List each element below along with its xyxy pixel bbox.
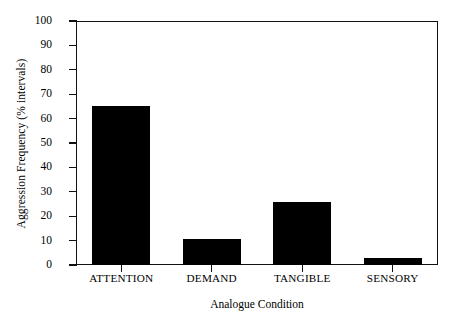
y-axis-tick-label: 100 — [0, 15, 64, 27]
x-axis-title: Analogue Condition — [76, 298, 438, 311]
bar-tangible — [273, 202, 331, 265]
y-axis-tick-label: 10 — [0, 235, 64, 247]
bar-demand — [183, 239, 241, 265]
x-axis-tick — [121, 265, 122, 272]
bar-attention — [92, 106, 150, 265]
y-axis-tick-label: 80 — [0, 64, 64, 76]
y-axis-tick-label: 50 — [0, 137, 64, 149]
y-axis-tick-label: 30 — [0, 186, 64, 198]
bar-chart-figure: Aggression Frequency (% intervals) 01020… — [0, 0, 462, 323]
y-axis-tick-label: 0 — [0, 259, 64, 271]
y-axis-tick-label: 70 — [0, 88, 64, 100]
x-axis-tick — [302, 265, 303, 272]
x-axis-tick — [211, 265, 212, 272]
y-axis-tick-label: 90 — [0, 39, 64, 51]
x-axis-tick-label-sensory: SENSORY — [333, 272, 453, 285]
y-axis-tick-label: 60 — [0, 113, 64, 125]
y-axis-tick-label: 20 — [0, 210, 64, 222]
bar-sensory — [364, 258, 422, 265]
x-axis-tick — [392, 265, 393, 272]
plot-area — [76, 21, 438, 265]
y-axis-tick-label: 40 — [0, 161, 64, 173]
